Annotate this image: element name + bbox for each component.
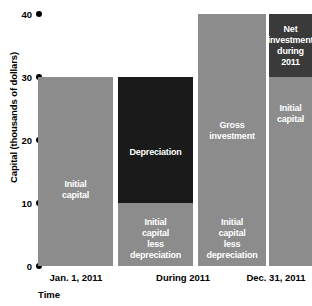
capital-bar-chart: Capital (thousands of dollars) 403020100… [0,0,312,306]
gross-investment-bar: Gross investmentInitial capital less dep… [198,14,266,266]
segment-label: Initial capital less depreciation [128,217,183,261]
x-tick-label-dec-31-2011: Dec. 31, 2011 [240,272,312,283]
x-tick-label-during-2011: During 2011 [140,272,226,283]
segment-initial-capital: Initial capital [38,77,113,266]
segment-label: Initial capital [275,103,306,125]
segment-label: Gross investment [207,120,257,142]
segment-initial-capital-less-depreciation: Initial capital less depreciation [198,203,266,266]
segment-label: Initial capital [60,179,91,201]
segment-depreciation: Depreciation [118,77,193,203]
segment-label: Net investment during 2011 [269,24,312,68]
depreciation-bar: DepreciationInitial capital less depreci… [118,77,193,266]
segment-initial-capital-less-depreciation: Initial capital less depreciation [118,203,193,266]
segment-net-investment-during-2011: Net investment during 2011 [269,14,312,77]
initial-capital-bar: Initial capital [38,77,113,266]
segment-label: Depreciation [127,147,183,158]
x-tick-label-jan-1-2011: Jan. 1, 2011 [36,272,116,283]
segment-initial-capital: Initial capital [269,77,312,266]
plot-area: Initial capitalDepreciationInitial capit… [0,0,312,306]
net-investment-bar: Net investment during 2011Initial capita… [269,14,312,266]
x-axis-title: Time [38,289,60,300]
segment-label: Initial capital less depreciation [204,217,259,261]
segment-gross-investment: Gross investment [198,14,266,203]
